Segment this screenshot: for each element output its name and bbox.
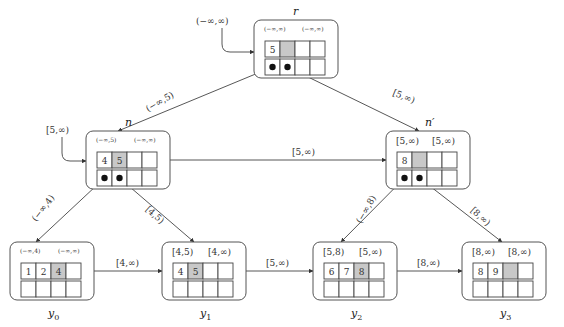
key-value: 5 — [117, 156, 123, 166]
high-fence-label: (−∞,∞) — [302, 25, 324, 32]
nodes: (−∞,∞)(−∞,∞)5r(−∞,5)(−∞,∞)45n[5,∞)[5,∞)8… — [10, 5, 546, 322]
pointer-dot — [269, 64, 275, 70]
value-cell — [473, 281, 488, 297]
edge-label: [5,∞) — [266, 258, 289, 268]
key-cell — [310, 41, 325, 57]
value-cell — [339, 281, 354, 297]
low-fence-label: (−∞,5) — [96, 136, 116, 143]
low-fence-label: [8,∞) — [472, 247, 495, 257]
pointer-dot — [284, 64, 290, 70]
value-cell — [203, 281, 218, 297]
node-name: y3 — [499, 307, 511, 322]
value-cell — [218, 281, 233, 297]
key-cell — [218, 263, 233, 279]
node-y1: [4,5)[4,∞)45y1 — [162, 242, 246, 322]
key-value: 5 — [193, 267, 199, 277]
root-entry: (−∞,∞) — [196, 16, 254, 52]
n-entry: [5,∞) — [46, 125, 86, 161]
value-cell — [369, 281, 384, 297]
low-fence-label: (−∞,4) — [20, 247, 40, 254]
key-cell — [412, 152, 427, 168]
pointer-dot — [401, 175, 407, 181]
key-value: 7 — [344, 267, 350, 277]
key-cell — [442, 152, 457, 168]
b-tree-diagram: (−∞,∞) [5,∞) (−∞,5)[5,∞)[5,∞)(−∞,4)[4,5)… — [0, 0, 564, 327]
key-value: 8 — [359, 267, 365, 277]
key-cell — [503, 263, 518, 279]
key-value: 8 — [478, 267, 484, 277]
value-cell — [36, 281, 51, 297]
node-r: (−∞,∞)(−∞,∞)5r — [254, 5, 338, 78]
value-cell — [488, 281, 503, 297]
pointer-cell — [442, 170, 457, 186]
value-cell — [66, 281, 81, 297]
edge-label: (−∞,5) — [144, 90, 176, 114]
value-cell — [354, 281, 369, 297]
root-entry-arrow — [222, 28, 254, 52]
high-fence-label: [5,∞) — [359, 247, 382, 257]
pointer-cell — [427, 170, 442, 186]
value-cell — [21, 281, 36, 297]
pointer-cell — [310, 59, 325, 75]
value-cell — [173, 281, 188, 297]
pointer-dot — [416, 175, 422, 181]
node-name: n — [125, 116, 132, 129]
node-name: n′ — [425, 116, 435, 129]
key-value: 2 — [41, 267, 47, 277]
key-value: 4 — [102, 156, 108, 166]
edge-label: [5,∞) — [292, 147, 315, 157]
edge-label: [4,∞) — [116, 258, 139, 268]
value-cell — [51, 281, 66, 297]
key-value: 6 — [329, 267, 335, 277]
edge-label: (−∞,8) — [354, 193, 378, 225]
node-name: y2 — [350, 307, 362, 322]
n-entry-label: [5,∞) — [46, 125, 69, 135]
low-fence-label: [5,∞) — [396, 136, 419, 146]
key-cell — [518, 263, 533, 279]
key-cell — [427, 152, 442, 168]
key-cell — [280, 41, 295, 57]
edge-y1-to-y2: [5,∞) — [246, 258, 313, 271]
edge-r-to-n: (−∞,5) — [118, 67, 273, 131]
low-fence-label: (−∞,∞) — [264, 25, 286, 32]
edge-n-to-n_prime: [5,∞) — [170, 147, 386, 160]
key-cell — [66, 263, 81, 279]
node-n_prime: [5,∞)[5,∞)8n′ — [386, 116, 470, 189]
key-cell — [203, 263, 218, 279]
key-cell — [142, 152, 157, 168]
key-cell — [295, 41, 310, 57]
high-fence-label: [5,∞) — [432, 136, 455, 146]
node-y0: (−∞,4)(−∞,∞)124y0 — [10, 242, 94, 322]
edge-line — [118, 67, 273, 131]
n-entry-arrow — [62, 137, 86, 161]
key-value: 4 — [56, 267, 62, 277]
root-entry-label: (−∞,∞) — [196, 16, 228, 26]
low-fence-label: [5,8) — [323, 247, 344, 257]
pointer-dot — [116, 175, 122, 181]
edge-label: (−∞,4) — [30, 193, 57, 223]
key-value: 9 — [493, 267, 499, 277]
node-y3: [8,∞)[8,∞)89y3 — [462, 242, 546, 322]
edge-label: [8,∞) — [469, 205, 493, 228]
low-fence-label: [4,5) — [172, 247, 193, 257]
key-value: 4 — [178, 267, 184, 277]
key-cell — [127, 152, 142, 168]
edge-y0-to-y1: [4,∞) — [94, 258, 162, 271]
key-value: 1 — [26, 267, 32, 277]
pointer-dot — [101, 175, 107, 181]
value-cell — [518, 281, 533, 297]
node-y2: [5,8)[5,∞)678y2 — [313, 242, 397, 322]
pointer-cell — [127, 170, 142, 186]
pointer-cell — [295, 59, 310, 75]
key-value: 5 — [270, 45, 276, 55]
value-cell — [324, 281, 339, 297]
edge-label: [4,5) — [144, 204, 167, 226]
pointer-cell — [142, 170, 157, 186]
node-n: (−∞,5)(−∞,∞)45n — [86, 116, 170, 189]
node-name: r — [293, 5, 299, 18]
node-name: y0 — [47, 307, 59, 322]
value-cell — [503, 281, 518, 297]
key-value: 8 — [402, 156, 408, 166]
edge-y2-to-y3: [8,∞) — [397, 258, 462, 271]
edge-label: [8,∞) — [417, 258, 440, 268]
